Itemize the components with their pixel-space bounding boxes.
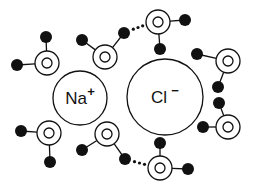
hydrogen-bond-dot xyxy=(133,160,136,163)
oxygen-atom xyxy=(95,122,119,146)
hydrogen-atom xyxy=(197,121,209,133)
hydrogen-bond-dot xyxy=(138,161,141,164)
hydrogen-atom xyxy=(76,34,88,46)
sodium-symbol: Na xyxy=(65,89,87,108)
ions-layer: Na+Cl− xyxy=(53,59,203,135)
oxygen-atom xyxy=(148,156,172,180)
water-molecule xyxy=(15,121,61,168)
hydrogen-atom xyxy=(15,125,27,137)
hydrogen-atom xyxy=(154,43,166,55)
water-molecule xyxy=(76,27,130,69)
hydrogen-atom xyxy=(179,14,191,26)
oxygen-atom xyxy=(146,10,170,34)
water-molecule xyxy=(76,122,131,165)
oxygen-atom xyxy=(35,51,59,75)
hydrogen-atom xyxy=(213,97,225,109)
hydration-diagram: Na+Cl− xyxy=(0,0,257,189)
oxygen-atom xyxy=(216,115,240,139)
hydrogen-bonds-layer xyxy=(132,24,146,166)
hydrogen-bond-dot xyxy=(132,28,135,31)
hydrogen-atom xyxy=(154,137,166,149)
hydrogen-bond-dot xyxy=(136,26,139,29)
hydrogen-bond-dot xyxy=(143,163,146,166)
chloride-charge: − xyxy=(171,83,179,98)
hydrogen-atom xyxy=(182,163,194,175)
hydrogen-atom xyxy=(212,81,224,93)
water-molecule xyxy=(11,31,59,75)
water-molecule xyxy=(197,97,240,139)
hydrogen-atom xyxy=(44,156,56,168)
hydrogen-atom xyxy=(191,48,203,60)
water-molecule xyxy=(146,10,191,55)
chloride-ion: Cl− xyxy=(127,59,203,135)
chloride-symbol: Cl xyxy=(151,88,167,107)
sodium-ion: Na+ xyxy=(53,71,107,125)
oxygen-atom xyxy=(216,49,240,73)
hydrogen-atom xyxy=(76,144,88,156)
hydrogen-atom xyxy=(11,59,23,71)
sodium-charge: + xyxy=(87,84,95,99)
water-molecules-layer xyxy=(11,10,240,180)
hydrogen-atom xyxy=(118,27,130,39)
hydrogen-atom xyxy=(40,31,52,43)
oxygen-atom xyxy=(37,121,61,145)
oxygen-atom xyxy=(93,45,117,69)
hydrogen-atom xyxy=(119,153,131,165)
hydrogen-bond-dot xyxy=(141,24,144,27)
water-molecule xyxy=(148,137,194,180)
water-molecule xyxy=(191,48,240,93)
